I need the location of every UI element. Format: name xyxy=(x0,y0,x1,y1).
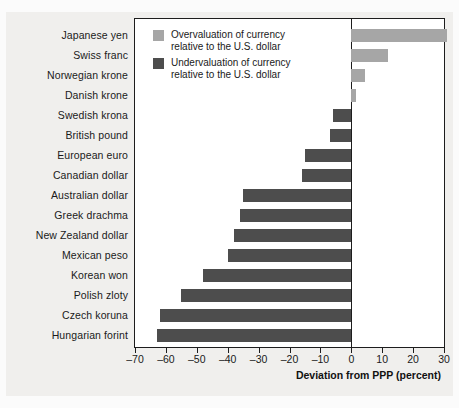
x-axis-tick-label: –50 xyxy=(188,353,206,365)
legend-label-overvaluation: Overvaluation of currency relative to th… xyxy=(171,29,285,52)
y-axis-label: Polish zloty xyxy=(6,290,128,301)
chart-area: Japanese yenSwiss francNorwegian kroneDa… xyxy=(6,12,453,396)
y-axis-label: Mexican peso xyxy=(6,250,128,261)
legend-item-overvaluation: Overvaluation of currency relative to th… xyxy=(153,29,333,52)
y-axis-label: Swedish krona xyxy=(6,110,128,121)
y-axis-label: Danish krone xyxy=(6,90,128,101)
legend-swatch-overvaluation xyxy=(153,30,164,41)
bar xyxy=(305,149,351,162)
bar xyxy=(351,29,447,42)
x-axis-tick-label: 30 xyxy=(438,353,450,365)
bar xyxy=(157,329,352,342)
bar xyxy=(351,89,356,102)
bar xyxy=(330,129,352,142)
bar xyxy=(234,229,351,242)
legend-label-overvaluation-line2: relative to the U.S. dollar xyxy=(171,41,285,53)
x-axis-tick-label: 0 xyxy=(348,353,354,365)
y-axis-label: Japanese yen xyxy=(6,30,128,41)
x-axis-tick-label: –40 xyxy=(219,353,237,365)
bar xyxy=(181,289,351,302)
y-axis-label: Korean won xyxy=(6,270,128,281)
legend-item-undervaluation: Undervaluation of currency relative to t… xyxy=(153,57,333,80)
bar xyxy=(351,69,365,82)
legend-label-undervaluation-line2: relative to the U.S. dollar xyxy=(171,69,291,81)
legend-label-undervaluation: Undervaluation of currency relative to t… xyxy=(171,57,291,80)
x-axis-tick-label: –60 xyxy=(157,353,175,365)
y-axis-label: New Zealand dollar xyxy=(6,230,128,241)
bar xyxy=(203,269,351,282)
legend-label-overvaluation-line1: Overvaluation of currency xyxy=(171,29,285,40)
y-axis-label: British pound xyxy=(6,130,128,141)
legend-swatch-undervaluation xyxy=(153,58,164,69)
y-axis-label: Canadian dollar xyxy=(6,170,128,181)
y-axis-label: Norwegian krone xyxy=(6,70,128,81)
y-axis-label: Hungarian forint xyxy=(6,330,128,341)
bar xyxy=(228,249,352,262)
bar xyxy=(302,169,351,182)
x-axis-tick-label: –10 xyxy=(312,353,330,365)
y-axis-label: Australian dollar xyxy=(6,190,128,201)
legend-label-undervaluation-line1: Undervaluation of currency xyxy=(171,57,291,68)
y-axis-label: Czech koruna xyxy=(6,310,128,321)
x-axis-tick-label: 10 xyxy=(376,353,388,365)
plot-area: Overvaluation of currency relative to th… xyxy=(134,18,445,348)
bar xyxy=(243,189,351,202)
x-axis-tick-label: –70 xyxy=(126,353,144,365)
bar xyxy=(160,309,352,322)
x-axis: –70–60–50–40–30–20–100102030 xyxy=(134,348,445,368)
bar xyxy=(240,209,351,222)
y-axis-labels: Japanese yenSwiss francNorwegian kroneDa… xyxy=(6,28,128,348)
x-axis-tick-label: –20 xyxy=(281,353,299,365)
bar xyxy=(351,49,388,62)
x-axis-title: Deviation from PPP (percent) xyxy=(134,369,445,381)
legend: Overvaluation of currency relative to th… xyxy=(153,29,333,85)
figure: Japanese yenSwiss francNorwegian kroneDa… xyxy=(0,0,459,408)
x-axis-tick-label: –30 xyxy=(250,353,268,365)
y-axis-label: Greek drachma xyxy=(6,210,128,221)
y-axis-label: European euro xyxy=(6,150,128,161)
bar xyxy=(333,109,352,122)
y-axis-label: Swiss franc xyxy=(6,50,128,61)
x-axis-tick-label: 20 xyxy=(407,353,419,365)
